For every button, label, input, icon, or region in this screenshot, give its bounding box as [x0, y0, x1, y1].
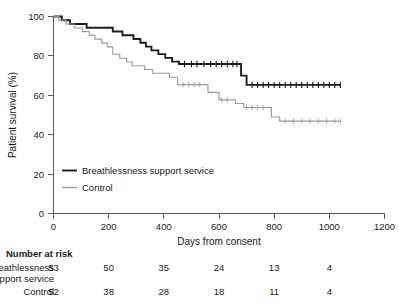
- y-tick-label: 80: [33, 50, 44, 61]
- x-tick-label: 600: [211, 221, 227, 232]
- risk-value: 35: [153, 262, 175, 273]
- x-tick-label: 0: [51, 221, 56, 232]
- x-axis-ticks: [54, 214, 385, 220]
- y-tick-label: 40: [33, 129, 44, 140]
- y-tick-label: 100: [28, 11, 44, 22]
- chart-legend: Breathlessness support service Control: [62, 165, 214, 193]
- y-tick-label: 0: [39, 208, 44, 219]
- risk-row-label-line2: support service: [0, 273, 54, 284]
- x-tick-label: 200: [101, 221, 117, 232]
- risk-value: 50: [98, 262, 120, 273]
- kaplan-meier-figure: 0 20 40 60 80 100 0 200 400 600 800 1000…: [0, 0, 399, 307]
- risk-table-title: Number at risk: [0, 248, 399, 259]
- risk-value: 52: [43, 286, 65, 297]
- risk-value: 24: [208, 262, 230, 273]
- risk-value: 13: [263, 262, 285, 273]
- x-axis-title: Days from consent: [177, 236, 261, 247]
- x-tick-label: 1000: [319, 221, 340, 232]
- y-axis-tick-labels: 0 20 40 60 80 100: [28, 11, 44, 219]
- risk-value: 11: [263, 286, 285, 297]
- risk-value: 53: [43, 262, 65, 273]
- x-tick-label: 400: [156, 221, 172, 232]
- legend-label-control: Control: [82, 182, 113, 193]
- curve-control: [54, 17, 341, 122]
- x-axis-tick-labels: 0 200 400 600 800 1000 1200: [51, 221, 395, 232]
- survival-curves: [54, 17, 341, 124]
- risk-value: 28: [153, 286, 175, 297]
- legend-label-treatment: Breathlessness support service: [82, 165, 214, 176]
- censor-marks-control: [183, 82, 340, 124]
- number-at-risk-table: Number at risk Breathlessnesssupport ser…: [0, 248, 399, 306]
- risk-value: 38: [98, 286, 120, 297]
- y-axis-ticks: [48, 17, 54, 214]
- curve-breathlessness-support-service: [54, 17, 341, 85]
- survival-chart-svg: 0 20 40 60 80 100 0 200 400 600 800 1000…: [0, 0, 399, 248]
- risk-value: 4: [318, 286, 340, 297]
- risk-value: 4: [318, 262, 340, 273]
- y-axis-title: Patient survival (%): [7, 72, 18, 158]
- y-tick-label: 60: [33, 90, 44, 101]
- y-tick-label: 20: [33, 169, 44, 180]
- risk-value: 18: [208, 286, 230, 297]
- x-tick-label: 800: [266, 221, 282, 232]
- x-tick-label: 1200: [374, 221, 395, 232]
- risk-table-grid: Breathlessnesssupport service53503524134…: [0, 262, 399, 306]
